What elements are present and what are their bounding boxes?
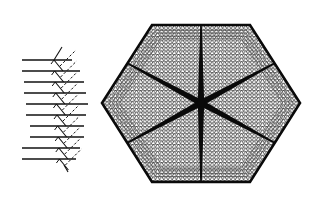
refracted-ray [59,148,68,159]
refracted-ray [54,60,63,71]
refracted-ray [58,126,67,137]
refracted-ray [56,93,65,104]
refracted-ray [55,71,64,82]
incident-ray [54,47,62,60]
refracted-ray [57,115,66,126]
refracted-ray [55,82,64,93]
refracted-ray [56,104,65,115]
dashed-ray [65,149,81,165]
ray-branching-diagram [22,47,88,172]
hex-center [197,99,205,107]
refracted-ray [59,159,68,170]
hexagonal-lattice-crystal [102,25,300,182]
refracted-ray [58,137,67,148]
figure-canvas [0,0,319,202]
